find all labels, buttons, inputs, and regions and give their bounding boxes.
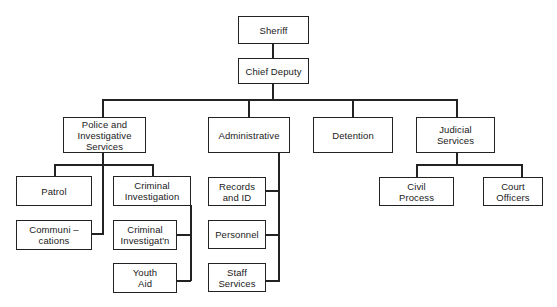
node-court-officers: Court Officers: [483, 177, 543, 206]
connector-bar-judicial: [456, 99, 458, 117]
connector-youth-aid: [177, 280, 191, 282]
connector-bar-admin: [248, 99, 250, 117]
node-administrative: Administrative: [208, 117, 290, 153]
connector-personnel: [266, 234, 279, 236]
node-communications: Communi – cations: [16, 220, 92, 250]
node-detention: Detention: [313, 117, 393, 153]
node-civil-process: Civil Process: [379, 177, 454, 206]
connector-police-subbar: [54, 164, 153, 166]
connector-main-bar: [102, 99, 457, 101]
connector-subbar-patrol: [54, 164, 56, 176]
connector-bar-detention: [352, 99, 354, 117]
node-chief-deputy: Chief Deputy: [238, 58, 309, 84]
node-personnel: Personnel: [208, 220, 266, 249]
node-staff-services: Staff Services: [208, 263, 266, 292]
connector-records: [266, 190, 279, 192]
connector-criminal-bracket: [190, 205, 192, 281]
connector-staff: [266, 280, 279, 282]
node-youth-aid: Youth Aid: [113, 263, 177, 293]
node-police-investigative-services: Police and Investigative Services: [63, 117, 146, 153]
connector-criminal-investigatn: [177, 234, 191, 236]
connector-subbar-criminal: [152, 164, 154, 176]
node-judicial-services: Judicial Services: [416, 117, 495, 153]
connector-sheriff-chief: [272, 43, 274, 58]
node-sheriff: Sheriff: [238, 16, 309, 44]
connector-subbar-civil: [416, 164, 418, 177]
org-chart: Sheriff Chief Deputy Police and Investig…: [0, 0, 557, 307]
connector-chief-bar: [272, 83, 274, 100]
connector-admin-bracket: [278, 152, 280, 282]
node-patrol: Patrol: [16, 176, 92, 206]
connector-communications: [92, 233, 104, 235]
node-criminal-investigatn: Criminal Investigat'n: [113, 220, 177, 250]
connector-subbar-court: [521, 164, 523, 177]
connector-judicial-subbar: [416, 164, 523, 166]
connector-bar-police: [102, 99, 104, 117]
node-records-and-id: Records and ID: [208, 177, 266, 206]
node-criminal-investigation: Criminal Investigation: [113, 176, 191, 206]
